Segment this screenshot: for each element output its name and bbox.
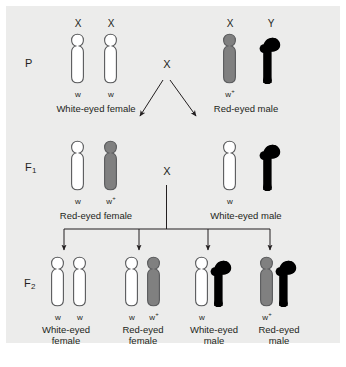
- cross-symbol-f1: X: [160, 165, 174, 177]
- generation-label-f1: F1: [25, 161, 37, 173]
- allele-label: w+: [257, 311, 277, 322]
- chromosome-x-red: [103, 140, 118, 191]
- allele-label: w: [101, 88, 121, 99]
- allele-label: w+: [220, 88, 240, 99]
- chromosome-x-white: [222, 140, 237, 191]
- generation-label-f2: F2: [24, 277, 36, 289]
- phenotype-label-red-eyed-male: Red-eyed male: [200, 103, 292, 114]
- allele-label: w: [122, 311, 142, 322]
- chromosome-x-white: [194, 256, 209, 307]
- chromosome-x-red: [222, 33, 237, 84]
- chromosome-x-white: [70, 33, 85, 84]
- generation-label-p: P: [25, 57, 33, 69]
- chromosome-x-white: [50, 256, 65, 307]
- chromosome-header-p-m2: Y: [263, 18, 279, 29]
- chromosome-x-white: [103, 33, 118, 84]
- chromosome-y: [259, 144, 281, 191]
- allele-label: w+: [101, 195, 121, 206]
- chromosome-x-white: [124, 256, 139, 307]
- chromosome-header-p-f1: X: [70, 18, 86, 29]
- phenotype-label-red-eyed-female: Red-eyed female: [107, 324, 179, 346]
- phenotype-label-red-eyed-female: Red-eyed female: [52, 210, 140, 221]
- chromosome-header-p-f2: X: [103, 18, 119, 29]
- inheritance-diagram: P X X X Y w w White-eyed female: [0, 0, 346, 367]
- chromosome-y: [259, 37, 281, 84]
- phenotype-label-white-eyed-male: White-eyed male: [176, 324, 252, 346]
- chromosome-x-white: [72, 256, 87, 307]
- allele-label: w: [68, 88, 88, 99]
- allele-label: w: [48, 311, 68, 322]
- chromosome-x-red: [146, 256, 161, 307]
- cross-symbol-p: X: [160, 58, 174, 70]
- allele-label: w: [68, 195, 88, 206]
- chromosome-x-red: [259, 256, 274, 307]
- chromosome-y: [275, 260, 297, 307]
- phenotype-label-white-eyed-female: White-eyed female: [48, 103, 144, 114]
- allele-label: w: [220, 195, 240, 206]
- chromosome-x-white: [70, 140, 85, 191]
- phenotype-label-white-eyed-female: White-eyed female: [28, 324, 104, 346]
- allele-label: w: [192, 311, 212, 322]
- chromosome-y: [210, 260, 232, 307]
- allele-label: w: [70, 311, 90, 322]
- chromosome-header-p-m1: X: [222, 18, 238, 29]
- phenotype-label-white-eyed-male: White-eyed male: [198, 210, 294, 221]
- phenotype-label-red-eyed-male: Red-eyed male: [243, 324, 315, 346]
- allele-label: w+: [144, 311, 164, 322]
